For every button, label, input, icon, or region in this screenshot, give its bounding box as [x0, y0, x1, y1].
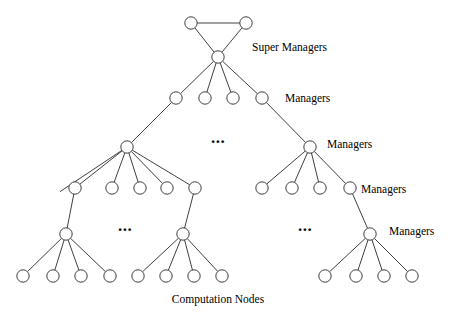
node-managers-level-5-0[interactable]	[60, 228, 72, 240]
node-computation-nodes-9[interactable]	[350, 270, 362, 282]
node-managers-level-4-8[interactable]	[344, 182, 356, 194]
node-managers-level-2-3[interactable]	[256, 92, 268, 104]
tree-edge	[222, 28, 242, 52]
tree-edge	[70, 238, 105, 271]
ellipsis-group: .........	[118, 128, 312, 235]
tree-edge	[294, 153, 307, 183]
node-computation-nodes-10[interactable]	[378, 270, 390, 282]
label-computation-nodes: Computation Nodes	[172, 293, 265, 306]
tree-edge	[330, 238, 366, 272]
label-managers-level-5: Managers	[389, 225, 435, 238]
tree-edge	[314, 151, 345, 183]
node-managers-level-4-2[interactable]	[134, 182, 146, 194]
node-super-manager-root-0[interactable]	[212, 51, 224, 63]
label-super-managers: Super Managers	[252, 41, 328, 54]
node-managers-level-2-1[interactable]	[199, 92, 211, 104]
node-managers-level-4-5[interactable]	[256, 182, 268, 194]
label-managers-level-3: Managers	[327, 138, 373, 151]
node-managers-level-5-1[interactable]	[177, 228, 189, 240]
node-managers-level-3-0[interactable]	[121, 141, 133, 153]
figure-root: ......... Super ManagersManagersManagers…	[0, 0, 465, 320]
node-computation-nodes-7[interactable]	[216, 270, 228, 282]
tree-edge	[114, 153, 125, 182]
node-computation-nodes-6[interactable]	[188, 270, 200, 282]
node-computation-nodes-4[interactable]	[132, 270, 144, 282]
tree-edge	[223, 61, 258, 94]
ellipsis-marker-0: ...	[211, 128, 225, 147]
node-computation-nodes-8[interactable]	[319, 270, 331, 282]
tree-edge	[266, 102, 305, 142]
node-computation-nodes-0[interactable]	[17, 270, 29, 282]
node-managers-level-4-1[interactable]	[106, 182, 118, 194]
tree-edge	[195, 28, 214, 52]
node-computation-nodes-3[interactable]	[104, 270, 116, 282]
label-managers-level-4: Managers	[361, 183, 407, 196]
tree-edge	[168, 240, 180, 271]
tree-edge	[67, 194, 74, 228]
hierarchy-diagram: ......... Super ManagersManagersManagers…	[0, 0, 465, 320]
node-managers-level-4-6[interactable]	[286, 182, 298, 194]
node-managers-level-4-7[interactable]	[314, 182, 326, 194]
tree-edge	[143, 238, 179, 272]
node-super-managers-peer-row-0[interactable]	[185, 17, 197, 29]
node-computation-nodes-2[interactable]	[75, 270, 87, 282]
node-managers-level-5-2[interactable]	[364, 228, 376, 240]
node-computation-nodes-5[interactable]	[160, 270, 172, 282]
tree-edge	[352, 194, 367, 229]
node-managers-level-2-2[interactable]	[227, 92, 239, 104]
tree-edge	[311, 153, 318, 182]
label-managers-level-2: Managers	[285, 92, 331, 105]
tree-edge	[80, 151, 122, 184]
ellipsis-marker-2: ...	[298, 216, 312, 235]
tree-edge	[132, 150, 189, 185]
node-super-managers-peer-row-1[interactable]	[240, 17, 252, 29]
tree-edge	[27, 238, 61, 271]
tree-edge	[207, 63, 216, 92]
node-computation-nodes-11[interactable]	[406, 270, 418, 282]
node-managers-level-4-4[interactable]	[189, 182, 201, 194]
node-managers-level-2-0[interactable]	[170, 92, 182, 104]
node-computation-nodes-1[interactable]	[47, 270, 59, 282]
node-managers-level-4-0[interactable]	[69, 182, 81, 194]
node-managers-level-4-3[interactable]	[161, 182, 173, 194]
labels-group: Super ManagersManagersManagersManagersMa…	[172, 41, 435, 306]
tree-edge	[55, 240, 64, 270]
tree-edge	[131, 151, 162, 183]
tree-edge	[267, 151, 306, 184]
node-managers-level-3-1[interactable]	[304, 141, 316, 153]
tree-edge	[185, 240, 193, 270]
tree-edge	[185, 194, 194, 228]
tree-edge	[374, 238, 407, 271]
ellipsis-marker-1: ...	[118, 216, 132, 235]
tree-edge	[131, 102, 171, 142]
tree-edge	[180, 61, 213, 93]
